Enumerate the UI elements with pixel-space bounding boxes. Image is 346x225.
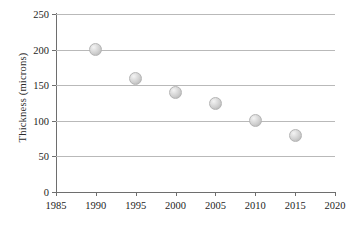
data-point-marker — [89, 43, 102, 56]
x-axis-tick — [56, 192, 57, 196]
data-point-marker — [249, 114, 262, 127]
x-axis-tick-label: 2010 — [245, 200, 266, 211]
x-axis-tick-label: 2020 — [325, 200, 346, 211]
data-point-marker — [209, 97, 222, 110]
x-axis-tick — [335, 192, 336, 196]
x-axis-tick-label: 1990 — [85, 200, 106, 211]
y-axis-tick-label: 150 — [33, 80, 49, 91]
data-point-marker — [169, 86, 182, 99]
y-axis-tick — [52, 121, 56, 122]
y-axis-tick-label: 50 — [39, 151, 50, 162]
y-axis-tick — [52, 14, 56, 15]
y-gridline: 50 — [56, 156, 335, 157]
x-axis-tick-label: 2015 — [285, 200, 306, 211]
x-axis-tick — [136, 192, 137, 196]
y-gridline: 100 — [56, 121, 335, 122]
y-axis-tick — [52, 50, 56, 51]
y-axis-tick — [52, 85, 56, 86]
data-point-marker — [289, 129, 302, 142]
y-gridline: 150 — [56, 85, 335, 86]
x-axis-tick-label: 1995 — [125, 200, 146, 211]
y-axis-tick-label: 200 — [33, 44, 49, 55]
chart-figure: Thickness (microns) 05010015020025019851… — [0, 0, 346, 225]
x-axis-tick-label: 1985 — [46, 200, 67, 211]
data-point-marker — [129, 72, 142, 85]
y-axis-tick-label: 100 — [33, 115, 49, 126]
y-axis-tick — [52, 156, 56, 157]
x-axis-tick — [96, 192, 97, 196]
x-axis-tick-label: 2000 — [165, 200, 186, 211]
x-axis-tick — [295, 192, 296, 196]
y-gridline: 250 — [56, 14, 335, 15]
x-axis-tick-label: 2005 — [205, 200, 226, 211]
y-axis-tick-label: 250 — [33, 9, 49, 20]
y-axis-title: Thickness (microns) — [17, 18, 28, 178]
x-axis-tick — [215, 192, 216, 196]
x-axis-tick — [176, 192, 177, 196]
plot-area: 0501001502002501985199019952000200520102… — [56, 14, 335, 192]
x-axis-tick — [255, 192, 256, 196]
y-gridline: 0 — [56, 192, 335, 193]
y-axis-tick-label: 0 — [44, 187, 49, 198]
